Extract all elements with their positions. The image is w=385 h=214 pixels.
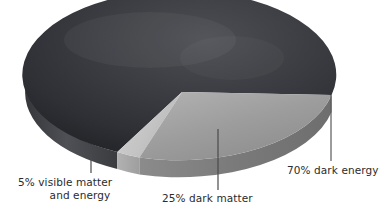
- label-dark-matter: 25% dark matter: [162, 192, 253, 205]
- label-visible-matter-line2: and energy: [18, 189, 112, 202]
- label-dark-energy: 70% dark energy: [287, 164, 379, 177]
- label-visible-matter: 5% visible matter and energy: [18, 176, 112, 202]
- label-visible-matter-line1: 5% visible matter: [18, 176, 112, 188]
